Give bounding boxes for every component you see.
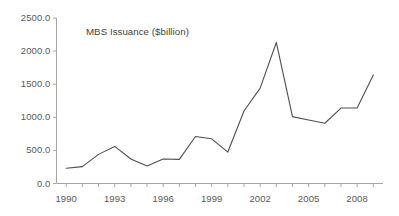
x-axis-tick-label: 2008 <box>337 193 377 204</box>
chart-title: MBS Issuance ($billion) <box>86 26 189 37</box>
x-axis-tick-label: 1993 <box>95 193 135 204</box>
x-axis-tick-label: 2005 <box>289 193 329 204</box>
y-axis-tick-label: 1500.0 <box>7 78 51 89</box>
y-axis-ticks <box>53 18 57 184</box>
mbs-issuance-line-chart: 0.0500.01000.01500.02000.02500.0 1990199… <box>0 0 399 216</box>
plot-canvas <box>0 0 399 216</box>
x-axis-tick-label: 1996 <box>143 193 183 204</box>
data-series-group <box>66 42 373 168</box>
y-axis-tick-label: 2500.0 <box>7 12 51 23</box>
x-axis-ticks <box>66 184 373 188</box>
x-axis-tick-label: 1990 <box>46 193 86 204</box>
x-axis-tick-label: 1999 <box>192 193 232 204</box>
y-axis-tick-label: 2000.0 <box>7 45 51 56</box>
y-axis-tick-label: 1000.0 <box>7 111 51 122</box>
y-axis-tick-label: 500.0 <box>7 144 51 155</box>
y-axis-tick-label: 0.0 <box>7 178 51 189</box>
axis-group <box>53 18 383 187</box>
x-axis-tick-label: 2002 <box>240 193 280 204</box>
series-line-mbs-issuance <box>66 42 373 168</box>
